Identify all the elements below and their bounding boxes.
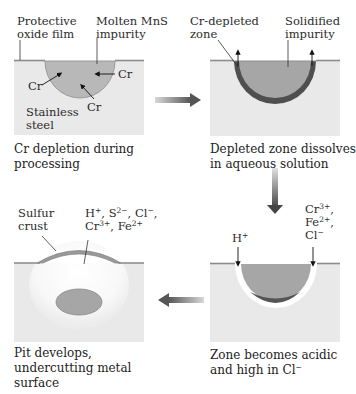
ion-symbol: Fe	[305, 215, 319, 229]
separator: ,	[154, 206, 158, 220]
caption-line: in aqueous solution	[210, 157, 356, 172]
ion-charge: 3+	[319, 202, 330, 211]
label-cr-depleted-zone: Cr-depleted zone	[190, 15, 259, 41]
caption-panel-4: Pit develops, undercutting metal surface	[14, 346, 131, 391]
caption-panel-2: Depleted zone dissolves in aqueous solut…	[210, 142, 356, 172]
caption-line: undercutting metal	[14, 361, 131, 376]
caption-line: Cr depletion during	[14, 142, 134, 157]
label-cr-bottom: Cr	[87, 101, 101, 114]
label-molten-mns-impurity: Molten MnS impurity	[96, 15, 168, 41]
caption-line: Depleted zone dissolves	[210, 142, 356, 157]
label-line: zone	[190, 28, 259, 41]
label-line: impurity	[96, 28, 168, 41]
ion-charge: 2−	[117, 206, 128, 215]
label-h-plus: H+	[232, 232, 248, 245]
ion-charge: −	[296, 363, 302, 372]
ion-symbol: H	[232, 231, 242, 245]
ion-charge: +	[242, 231, 248, 240]
ion-symbol: , S	[101, 206, 116, 220]
label-line: Cr3+, Fe2+	[85, 220, 157, 233]
panel-4-pit-develops	[14, 236, 144, 342]
separator: ,	[330, 215, 334, 229]
ion-symbol: H	[85, 206, 95, 220]
ion-charge: 3+	[99, 219, 110, 228]
label-protective-oxide-film: Protective oxide film	[17, 15, 77, 41]
caption-panel-1: Cr depletion during processing	[14, 142, 134, 172]
label-line: oxide film	[17, 28, 77, 41]
flow-arrow-down	[267, 168, 283, 214]
label-solidified-impurity: Solidified impurity	[285, 15, 340, 41]
label-line: Cl−	[305, 229, 334, 242]
ion-symbol: , Fe	[110, 219, 131, 233]
ion-symbol: Cl	[305, 228, 317, 242]
caption-line: Pit develops,	[14, 346, 131, 361]
label-cr-left: Cr	[28, 80, 42, 93]
caption-panel-3: Zone becomes acidic and high in Cl−	[210, 348, 337, 378]
panel-2-depleted-zone-dissolves	[210, 40, 340, 136]
label-line: impurity	[285, 28, 340, 41]
ion-charge: −	[317, 228, 323, 237]
caption-line: processing	[14, 157, 134, 172]
ion-symbol: , Cl	[128, 206, 148, 220]
separator: ,	[330, 202, 334, 216]
flow-arrow-right	[155, 93, 201, 107]
label-line: steel	[26, 119, 79, 132]
label-stainless-steel: Stainless steel	[26, 106, 79, 132]
caption-line: and high in Cl−	[210, 363, 337, 378]
ion-symbol: Cr	[305, 202, 319, 216]
label-cr-right: Cr	[118, 68, 132, 81]
ion-charge: 2+	[319, 215, 330, 224]
label-line: crust	[18, 220, 54, 233]
sulfur-crust-leader	[42, 236, 56, 251]
mns-inclusion-remnant	[56, 289, 102, 315]
caption-line: surface	[14, 376, 131, 391]
flow-arrow-left	[158, 293, 204, 307]
label-pit-ions: H+, S2−, Cl−, Cr3+, Fe2+	[85, 207, 157, 233]
panel-3-zone-acidic	[210, 247, 340, 342]
caption-text: and high in Cl	[210, 363, 296, 377]
label-sulfur-crust: Sulfur crust	[18, 207, 54, 233]
label-ions-out: Cr3+, Fe2+, Cl−	[305, 203, 334, 242]
ion-symbol: Cr	[85, 219, 99, 233]
caption-line: Zone becomes acidic	[210, 348, 337, 363]
ion-charge: 2+	[132, 219, 143, 228]
